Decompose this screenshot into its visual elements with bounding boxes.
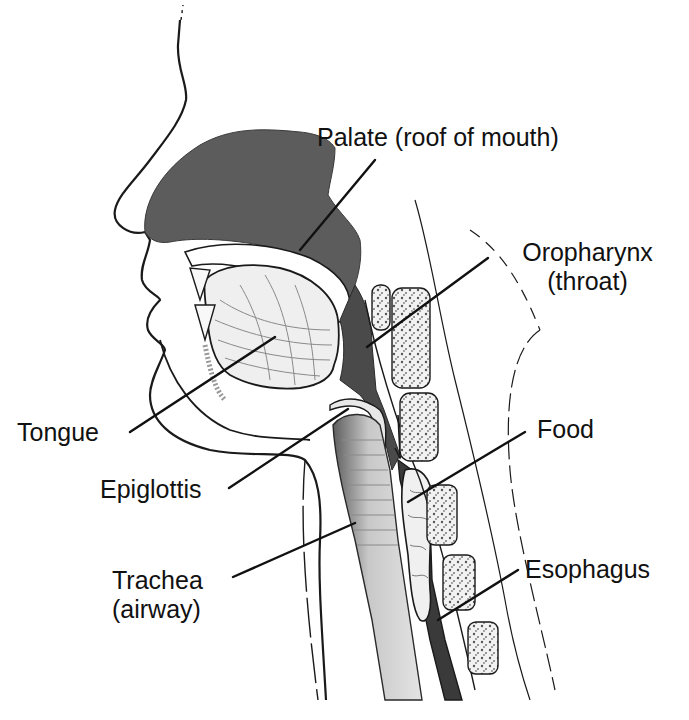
label-tongue: Tongue [17,418,99,447]
label-palate: Palate (roof of mouth) [317,123,559,152]
forehead-dash [181,5,183,20]
label-oropharynx-line2: (throat) [495,267,680,296]
label-epiglottis: Epiglottis [100,475,201,504]
vertebra-c1 [372,285,390,330]
vertebra-c6 [468,622,498,674]
label-trachea: Trachea (airway) [112,566,203,624]
throat-front-outline [303,460,318,700]
label-trachea-line2: (airway) [112,595,203,624]
label-food: Food [537,415,594,444]
label-esophagus: Esophagus [525,555,650,584]
label-oropharynx: Oropharynx (throat) [495,238,680,296]
vertebra-c5 [443,555,475,610]
label-oropharynx-line1: Oropharynx [495,238,680,267]
neck-back-outline [508,330,555,690]
label-trachea-line1: Trachea [112,566,203,595]
vertebra-c4 [427,485,457,545]
leader-epiglottis [229,409,348,488]
anatomy-illustration [0,0,689,720]
vertebra-c3 [400,393,438,461]
vertebra-c2 [392,288,430,388]
leader-trachea [233,523,355,577]
